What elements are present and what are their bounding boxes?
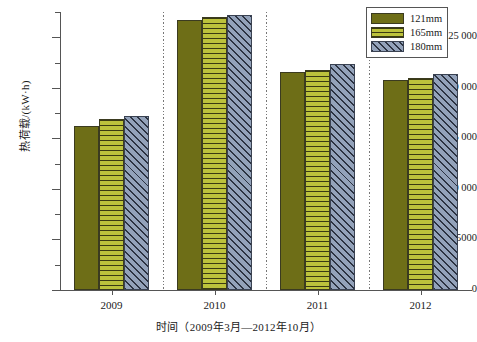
bar-2010-180mm [227, 15, 252, 290]
legend-item-121mm: 121mm [371, 12, 442, 25]
legend-label-180mm: 180mm [410, 41, 442, 52]
bar-2012-180mm [433, 74, 458, 290]
bar-2009-165mm [99, 119, 124, 290]
bar-2009-180mm [124, 116, 149, 290]
legend-swatch-icon-121mm [371, 13, 404, 24]
x-tick-2009 [112, 290, 113, 295]
y-tick-minor-2500 [55, 265, 60, 266]
y-tick-minor-17500 [55, 113, 60, 114]
legend-swatch-icon-180mm [371, 41, 404, 52]
x-axis-label: 时间（2009年3月—2012年10月） [0, 318, 477, 334]
legend: 121mm 165mm 180mm [366, 7, 448, 58]
y-tick-0 [52, 290, 60, 291]
bar-2009-121mm [74, 126, 99, 290]
y-tick-20000 [52, 88, 60, 89]
x-tick-label-2009: 2009 [72, 299, 152, 311]
x-axis-line [60, 290, 472, 291]
y-tick-5000 [52, 239, 60, 240]
x-tick-label-2010: 2010 [175, 299, 255, 311]
legend-label-165mm: 165mm [410, 27, 442, 38]
bar-2011-121mm [280, 72, 305, 290]
y-axis-line [60, 12, 61, 290]
group-separator-2 [266, 12, 267, 290]
bar-2012-165mm [408, 78, 433, 290]
y-tick-15000 [52, 138, 60, 139]
bar-chart: 0500010 00015 00020 00025 000 2009201020… [0, 0, 477, 342]
y-tick-10000 [52, 189, 60, 190]
y-tick-minor-27500 [55, 12, 60, 13]
bar-2011-180mm [330, 64, 355, 290]
y-tick-25000 [52, 37, 60, 38]
x-tick-2012 [421, 290, 422, 295]
x-tick-2010 [215, 290, 216, 295]
bar-2012-121mm [383, 80, 408, 290]
x-tick-2011 [318, 290, 319, 295]
bar-2010-121mm [177, 20, 202, 290]
legend-swatch-icon-165mm [371, 27, 404, 38]
y-axis-label: 热荷载/(kW·h) [16, 36, 32, 196]
legend-item-180mm: 180mm [371, 40, 442, 53]
y-tick-minor-7500 [55, 214, 60, 215]
x-tick-label-2012: 2012 [381, 299, 461, 311]
y-tick-minor-22500 [55, 63, 60, 64]
legend-item-165mm: 165mm [371, 26, 442, 39]
bar-2010-165mm [202, 17, 227, 290]
bar-2011-165mm [305, 70, 330, 290]
x-tick-label-2011: 2011 [278, 299, 358, 311]
legend-label-121mm: 121mm [410, 13, 442, 24]
y-tick-minor-12500 [55, 164, 60, 165]
group-separator-1 [163, 12, 164, 290]
